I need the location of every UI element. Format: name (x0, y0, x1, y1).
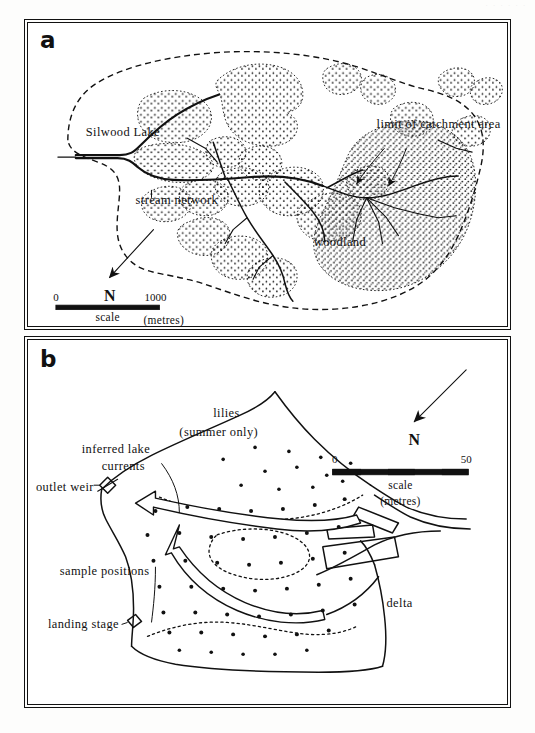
scale-bar-a (56, 305, 160, 309)
label-lilies-note: (summer only) (179, 425, 258, 439)
lake-shoreline-south (132, 646, 383, 672)
figure-page: . . . . . . (0, 0, 535, 733)
woodland-patch-far-ne (438, 68, 474, 97)
current-arrow-return (165, 525, 324, 623)
delta-channel-south (317, 531, 440, 575)
label-woodland: woodland (314, 235, 367, 249)
landing-stage-leader (122, 622, 128, 624)
delta-shore-link (361, 541, 375, 565)
scale-max-b: 50 (461, 453, 472, 465)
north-arrow-b (414, 370, 466, 422)
woodland-patch-ne-2 (361, 74, 396, 104)
scale-caption-a: scale (95, 311, 119, 323)
woodland-patch-lake-south (134, 144, 213, 183)
southern-shallow-margin (148, 622, 357, 636)
label-stream-network: stream network (136, 193, 219, 207)
label-inferred-lake-currents-2: currents (102, 459, 145, 473)
scale-min-b: 0 (332, 453, 338, 465)
scan-artifact-text: . . . . . . (0, 0, 535, 10)
woodland-patch-n-central (216, 64, 303, 146)
inner-weedbed-boundary (209, 529, 310, 579)
current-arrow-upper (136, 491, 361, 531)
label-limit-of-catchment-area: limit of catchment area (377, 117, 501, 131)
label-lilies: lilies (213, 406, 240, 420)
label-delta: delta (387, 596, 413, 610)
label-landing-stage: landing stage (48, 617, 119, 631)
current-arrow-tail-east (327, 577, 379, 615)
label-sample-positions: sample positions (60, 564, 150, 578)
north-label-a: N (104, 287, 116, 304)
scale-units-b: (metres) (380, 495, 421, 508)
panel-b-letter: b (40, 348, 56, 371)
scale-bar-b (333, 469, 468, 474)
scale-min-a: 0 (53, 291, 59, 303)
panel-a-catchment-map: Silwood Lake stream network limit of cat… (27, 22, 508, 327)
scale-caption-b: scale (388, 479, 412, 491)
scale-units-a: (metres) (144, 314, 185, 326)
sample-positions-leader (151, 567, 155, 623)
panel-b-drawing: lilies (summer only) inferred lake curre… (28, 340, 507, 704)
scale-max-a: 1000 (145, 291, 167, 303)
panel-a-letter: a (40, 29, 56, 52)
panel-b-lake-detail-map: lilies (summer only) inferred lake curre… (27, 339, 508, 705)
woodland-patch-far-ne2 (470, 78, 502, 105)
north-label-b: N (409, 431, 421, 448)
north-arrow-a (110, 230, 154, 278)
label-silwood-lake: Silwood Lake (86, 125, 160, 139)
panel-a-drawing: Silwood Lake stream network limit of cat… (28, 23, 507, 326)
lake-shoreline-north (102, 392, 275, 489)
label-outlet-weir: outlet weir (36, 480, 94, 494)
landing-stage-symbol (128, 614, 142, 627)
label-inferred-lake-currents-1: inferred lake (82, 442, 150, 456)
woodland-patch-ne-small (323, 64, 362, 95)
